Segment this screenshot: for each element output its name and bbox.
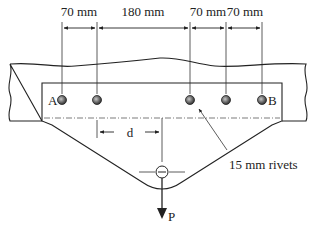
arrow-down-icon — [157, 208, 167, 219]
rivet-label-a: A — [48, 93, 58, 108]
rivet-3-icon — [186, 96, 195, 105]
rivet-label-b: B — [268, 93, 277, 108]
rivet-a-icon — [58, 96, 67, 105]
load-label: P — [168, 209, 175, 224]
rivet-b-icon — [258, 96, 267, 105]
rivet-callout-label: 15 mm rivets — [229, 157, 298, 172]
rivet-2-icon — [93, 96, 102, 105]
dimension-label-1: 70 mm — [61, 4, 97, 19]
dimension-label-3: 70 mm — [190, 4, 226, 19]
dimension-labels: 70 mm 180 mm 70 mm 70 mm — [61, 4, 263, 19]
eccentricity-label: d — [127, 125, 134, 140]
rivet-4-icon — [222, 96, 231, 105]
riveted-bracket-diagram: 70 mm 180 mm 70 mm 70 mm — [0, 0, 313, 230]
dimension-label-4: 70 mm — [227, 4, 263, 19]
dimension-label-2: 180 mm — [122, 4, 165, 19]
